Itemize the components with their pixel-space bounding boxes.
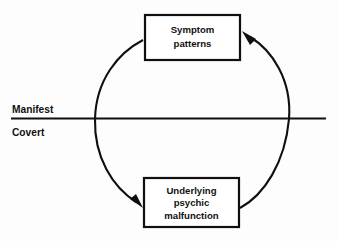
left-arc-arrowhead	[130, 194, 143, 208]
symptom-patterns-line-1: Symptom	[171, 24, 215, 35]
node-symptom-patterns: Symptom patterns	[145, 15, 240, 60]
underlying-psychic-malfunction-line-2: psychic	[174, 197, 210, 208]
covert-label: Covert	[12, 127, 45, 138]
cycle-diagram: Manifest Covert Symptom patterns Underly…	[0, 0, 338, 241]
symptom-patterns-line-2: patterns	[174, 38, 212, 49]
right-arc-arrowhead	[242, 31, 256, 45]
left-arc-path	[95, 40, 143, 202]
manifest-label: Manifest	[12, 104, 54, 115]
arrow-left-arc-down	[95, 40, 143, 208]
diagram-canvas: Manifest Covert Symptom patterns Underly…	[0, 0, 338, 241]
underlying-psychic-malfunction-line-3: malfunction	[164, 210, 219, 221]
underlying-psychic-malfunction-line-1: Underlying	[166, 185, 216, 196]
right-arc-path	[240, 37, 289, 208]
node-underlying-psychic-malfunction: Underlying psychic malfunction	[144, 178, 239, 227]
